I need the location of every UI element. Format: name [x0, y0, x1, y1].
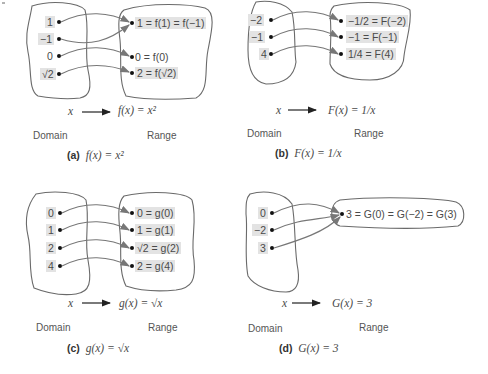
range-label: Range	[148, 322, 177, 333]
range-element: 0 = g(0)	[135, 207, 175, 219]
figure-caption: (b) F(x) = 1/x	[275, 147, 342, 159]
diagram-canvas	[0, 0, 488, 374]
domain-element: 0	[258, 207, 268, 219]
rule-input: x	[68, 297, 73, 309]
domain-element: 2	[46, 242, 56, 254]
rule-output: G(x) = 3	[332, 297, 372, 309]
domain-label: Domain	[36, 322, 70, 333]
range-element: 1/4 = F(4)	[346, 48, 396, 60]
domain-element: 1	[46, 224, 56, 236]
range-element: 2 = g(4)	[135, 260, 175, 272]
rule-input: x	[282, 297, 287, 309]
domain-element: 3	[258, 242, 268, 254]
caption-formula: g(x) = √x	[86, 342, 129, 354]
caption-letter: (b)	[275, 147, 288, 159]
domain-label: Domain	[33, 130, 67, 141]
domain-label: Domain	[248, 323, 282, 334]
domain-element: 1	[45, 16, 55, 28]
domain-label: Domain	[247, 128, 281, 139]
caption-letter: (c)	[67, 342, 80, 354]
range-label: Range	[359, 322, 388, 333]
domain-element: √2	[40, 68, 56, 80]
range-label: Range	[147, 130, 176, 141]
figure-caption: (a) f(x) = x²	[67, 149, 124, 161]
range-element: 2 = f(√2)	[135, 67, 178, 79]
domain-element: 4	[46, 260, 56, 272]
figure-caption: (c) g(x) = √x	[67, 342, 129, 354]
rule-output: f(x) = x²	[118, 104, 156, 116]
rule-output: g(x) = √x	[119, 297, 162, 309]
range-element: −1/2 = F(−2)	[346, 15, 408, 27]
range-element: −1 = F(−1)	[346, 31, 399, 43]
range-element: 0 = f(0)	[135, 51, 169, 63]
domain-element: 0	[46, 207, 56, 219]
rule-output: F(x) = 1/x	[328, 104, 375, 116]
domain-element: 0	[47, 50, 53, 62]
domain-element: −1	[38, 33, 54, 45]
rule-input: x	[68, 105, 73, 117]
range-element: 3 = G(0) = G(−2) = G(3)	[346, 208, 457, 220]
range-label: Range	[354, 128, 383, 139]
caption-letter: (a)	[67, 149, 80, 161]
domain-set-outline	[26, 192, 89, 295]
domain-element: 4	[259, 48, 269, 60]
range-element: 1 = g(1)	[135, 224, 175, 236]
range-element: √2 = g(2)	[135, 242, 181, 254]
domain-element: −2	[252, 224, 268, 236]
caption-formula: F(x) = 1/x	[294, 147, 341, 159]
domain-set-outline	[27, 3, 90, 99]
caption-letter: (d)	[279, 342, 292, 354]
rule-input: x	[276, 104, 281, 116]
caption-formula: f(x) = x²	[86, 149, 124, 161]
domain-element: −2	[248, 14, 264, 26]
domain-element: −1	[249, 31, 265, 43]
caption-formula: G(x) = 3	[298, 342, 338, 354]
figure-caption: (d) G(x) = 3	[279, 342, 339, 354]
range-element: 1 = f(1) = f(−1)	[135, 17, 206, 29]
